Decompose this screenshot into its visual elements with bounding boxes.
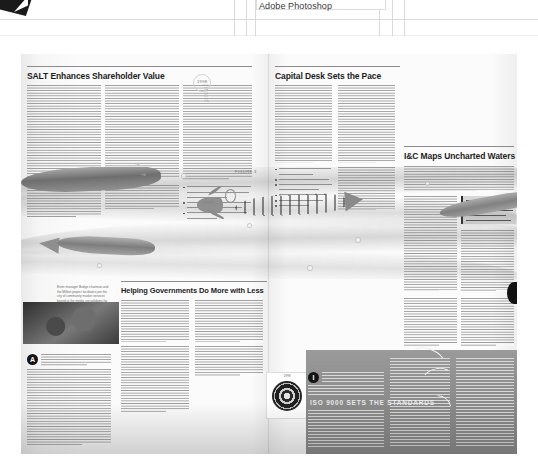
- body-text-block: [195, 346, 263, 376]
- body-text-block: [27, 85, 101, 180]
- bubble-shape: [97, 263, 102, 268]
- bubble-shape: [181, 173, 187, 179]
- chrome-column-divider-1: [234, 0, 235, 36]
- panel-text-block: [390, 358, 450, 448]
- seal-emblem-photo: [272, 381, 302, 411]
- body-text-block: [275, 85, 332, 163]
- center-article-rule: [275, 66, 400, 67]
- portrait-photo: [23, 302, 119, 344]
- dropcap-i: I: [308, 372, 319, 383]
- left-article-rule: [27, 66, 252, 67]
- body-text-block: [338, 85, 395, 163]
- magazine-spread[interactable]: SALT Enhances Shareholder Value: [21, 54, 517, 454]
- underwater-illustration: FIGURE 3: [21, 167, 517, 279]
- chrome-divider-bottom: [0, 35, 538, 36]
- center-bottom-rule: [121, 281, 267, 282]
- body-text-block: [461, 298, 514, 346]
- bubble-shape: [307, 265, 313, 271]
- chrome-column-divider-6: [404, 0, 405, 36]
- body-text-block: [195, 300, 263, 342]
- figure-label: FIGURE 3: [235, 169, 257, 174]
- panel-text-block: [308, 385, 384, 397]
- panel-text-block: [322, 372, 384, 382]
- application-chrome: Adobe Photoshop: [0, 0, 538, 41]
- proof-watermark: proof: [202, 84, 211, 102]
- right-article-rule: [404, 146, 514, 147]
- body-text-block: [183, 85, 252, 180]
- arrow-icon: ⇥: [140, 171, 146, 179]
- seal-photo-caption: 1998: [269, 374, 305, 379]
- headline-ic-maps: I&C Maps Uncharted Waters: [404, 151, 515, 161]
- body-text-block: [105, 85, 179, 180]
- panel-text-block: [456, 358, 514, 448]
- fish-tail-shape: [38, 236, 59, 253]
- body-text-block: [121, 346, 189, 412]
- headline-helping-governments: Helping Governments Do More with Less: [121, 286, 264, 295]
- body-text-block: [404, 298, 457, 346]
- chrome-column-divider-5: [392, 0, 393, 36]
- bubble-shape: [247, 223, 252, 228]
- fish-ring-detail: [225, 189, 236, 203]
- fish-tail-shape: [344, 190, 363, 211]
- chrome-column-divider-2: [246, 0, 247, 36]
- application-name-label: Adobe Photoshop: [259, 1, 332, 11]
- panel-text-block: [308, 410, 384, 448]
- dropcap-a: A: [27, 354, 38, 365]
- body-text-block: [27, 369, 111, 445]
- edge-ink-mark: [507, 282, 517, 304]
- bubble-shape: [355, 237, 361, 243]
- headline-capital-desk: Capital Desk Sets the Pace: [275, 71, 381, 81]
- chrome-divider-top: [0, 19, 538, 20]
- body-text-block: [41, 354, 111, 366]
- iso-feature-panel: I ISO 9000 SETS THE STANDARDS: [306, 350, 517, 454]
- headline-salt: SALT Enhances Shareholder Value: [27, 71, 165, 81]
- arrow-icon: →: [134, 160, 141, 167]
- document-canvas[interactable]: SALT Enhances Shareholder Value: [0, 41, 538, 468]
- bubble-shape: [425, 181, 430, 186]
- body-text-block: [121, 300, 189, 342]
